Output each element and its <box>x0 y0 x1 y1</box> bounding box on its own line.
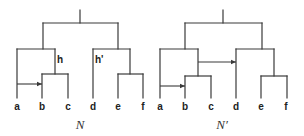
leaf-label-c: c <box>208 101 214 112</box>
leaf-label-e: e <box>258 101 264 112</box>
leaf-label-f: f <box>141 101 145 112</box>
leaf-label-d: d <box>233 101 239 112</box>
network-n-prime: a b c d e f N′ <box>157 10 288 132</box>
leaf-label-a: a <box>14 101 20 112</box>
leaf-label-f: f <box>284 101 288 112</box>
leaf-label-b: b <box>39 101 45 112</box>
node-label-h-prime: h' <box>95 54 104 65</box>
caption-n-prime: N′ <box>215 117 228 132</box>
node-label-h: h <box>57 54 63 65</box>
leaf-label-a: a <box>157 101 163 112</box>
network-diagram: h h' a b c d e f N <box>0 0 304 136</box>
leaf-label-d: d <box>90 101 96 112</box>
leaf-label-b: b <box>182 101 188 112</box>
network-n: h h' a b c d e f N <box>14 10 145 132</box>
leaf-label-c: c <box>65 101 71 112</box>
leaf-label-e: e <box>115 101 121 112</box>
caption-n: N <box>75 117 86 132</box>
